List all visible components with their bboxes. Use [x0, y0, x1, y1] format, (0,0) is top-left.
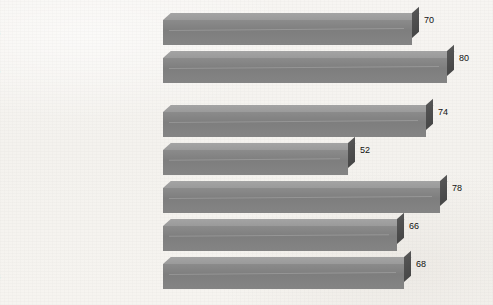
bar-top-face	[163, 13, 420, 20]
bar-end-cap	[447, 45, 454, 76]
bar-value-label: 70	[424, 15, 434, 25]
bar-top-face	[163, 143, 356, 150]
bar-end-cap	[412, 7, 419, 38]
bar-chart: Hispanic70Not Hispanic80Mexican74Puerto …	[0, 0, 493, 305]
bar-end-cap	[397, 213, 404, 244]
bar-front-face	[163, 58, 447, 83]
bar-value-label: 66	[409, 221, 419, 231]
bar-value-label: 74	[438, 107, 448, 117]
bar-top-face	[163, 51, 455, 58]
bar-top-face	[163, 105, 434, 112]
bar-end-cap	[426, 99, 433, 130]
bar-front-face	[163, 264, 404, 289]
bar-front-face	[163, 150, 348, 175]
bar-end-cap	[348, 137, 355, 168]
bar-top-face	[163, 219, 405, 226]
bar-value-label: 80	[459, 53, 469, 63]
bar-value-label: 52	[360, 145, 370, 155]
bar-value-label: 68	[416, 259, 426, 269]
bar-value-label: 78	[452, 183, 462, 193]
bar-front-face	[163, 226, 397, 251]
bar-top-face	[163, 257, 412, 264]
bar-front-face	[163, 188, 440, 213]
bar-end-cap	[440, 175, 447, 206]
bar-end-cap	[404, 251, 411, 282]
bar-front-face	[163, 112, 426, 137]
bar-top-face	[163, 181, 448, 188]
bar-front-face	[163, 20, 412, 45]
